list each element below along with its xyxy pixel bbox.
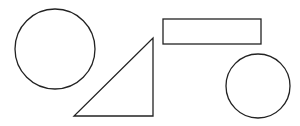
right-triangle <box>74 38 153 116</box>
rectangle <box>163 19 261 44</box>
shapes-canvas <box>0 0 300 126</box>
small-circle <box>226 54 290 118</box>
large-circle <box>15 9 95 89</box>
